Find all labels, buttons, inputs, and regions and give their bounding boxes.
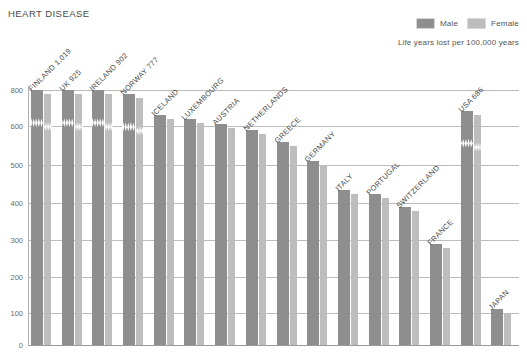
bar-female[interactable] [259, 134, 266, 346]
bar-female[interactable] [136, 98, 143, 346]
legend-label-male: Male [440, 19, 458, 28]
y-axis-label-0: 0 [19, 341, 23, 350]
y-axis-label-600: 600 [10, 122, 23, 131]
bar-group[interactable] [62, 86, 82, 346]
legend-item-female: Female [467, 18, 519, 29]
plot-area: 0100200300400500600800 FINLAND 1,019UK 9… [28, 86, 519, 346]
legend: Male Female [416, 18, 519, 29]
page-title: HEART DISEASE [8, 8, 90, 19]
bar-group[interactable] [338, 86, 358, 346]
bar-male[interactable] [215, 124, 227, 346]
bar-male[interactable] [307, 161, 319, 346]
bar-group[interactable] [399, 86, 419, 346]
bar-male[interactable] [92, 90, 104, 346]
bar-male[interactable] [246, 130, 258, 346]
bar-female[interactable] [412, 211, 419, 346]
bar-group[interactable] [430, 86, 450, 346]
bar-female[interactable] [320, 165, 327, 346]
legend-subtitle: Life years lost per 100,000 years [398, 38, 519, 47]
bar-female[interactable] [75, 94, 82, 346]
bar-male[interactable] [369, 194, 381, 347]
bar-female[interactable] [290, 146, 297, 346]
y-axis-label-800: 800 [10, 86, 23, 95]
y-axis-label-200: 200 [10, 273, 23, 282]
chart-container: HEART DISEASE Male Female Life years los… [0, 0, 527, 359]
bar-female[interactable] [474, 115, 481, 346]
bar-female[interactable] [167, 119, 174, 346]
bar-male[interactable] [184, 119, 196, 346]
bar-male[interactable] [31, 90, 43, 346]
bar-female[interactable] [382, 198, 389, 347]
bar-female[interactable] [504, 313, 511, 346]
legend-swatch-male [416, 18, 435, 29]
bar-male[interactable] [123, 94, 135, 346]
bar-female[interactable] [351, 194, 358, 346]
bar-female[interactable] [197, 123, 204, 346]
bar-male[interactable] [62, 90, 74, 346]
bar-group[interactable] [369, 86, 389, 346]
legend-swatch-female [467, 18, 486, 29]
bar-male[interactable] [430, 244, 442, 346]
y-axis-label-400: 400 [10, 199, 23, 208]
bar-male[interactable] [277, 142, 289, 346]
legend-item-male: Male [416, 18, 458, 29]
bar-group[interactable] [184, 86, 204, 346]
y-axis-label-100: 100 [10, 309, 23, 318]
bar-group[interactable] [123, 86, 143, 346]
bar-group[interactable] [31, 86, 51, 346]
legend-label-female: Female [491, 19, 519, 28]
bar-male[interactable] [338, 190, 350, 346]
bar-female[interactable] [228, 128, 235, 346]
bar-female[interactable] [44, 94, 51, 346]
bar-male[interactable] [399, 207, 411, 346]
bar-male[interactable] [154, 115, 166, 346]
bar-female[interactable] [105, 94, 112, 346]
y-axis-label-500: 500 [10, 161, 23, 170]
bar-group[interactable] [307, 86, 327, 346]
bar-female[interactable] [443, 248, 450, 346]
bar-male[interactable] [491, 309, 503, 346]
bar-male[interactable] [461, 111, 473, 346]
bar-group[interactable] [154, 86, 174, 346]
bar-group[interactable] [461, 86, 481, 346]
y-axis-label-300: 300 [10, 236, 23, 245]
bar-group[interactable] [92, 86, 112, 346]
